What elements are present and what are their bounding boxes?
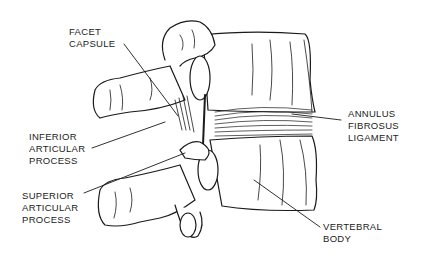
label-line: SUPERIOR xyxy=(22,190,78,202)
label-annulus-fibrosus-ligament: ANNULUS FIBROSUS LIGAMENT xyxy=(348,108,399,144)
label-line: FACET xyxy=(69,26,115,38)
vertebrae-diagram: FACET CAPSULE INFERIOR ARTICULAR PROCESS… xyxy=(0,0,423,266)
label-facet-capsule: FACET CAPSULE xyxy=(69,26,115,50)
label-line: PROCESS xyxy=(22,214,78,226)
label-superior-articular-process: SUPERIOR ARTICULAR PROCESS xyxy=(22,190,78,226)
label-inferior-articular-process: INFERIOR ARTICULAR PROCESS xyxy=(29,131,85,167)
label-line: CAPSULE xyxy=(69,38,115,50)
label-line: ARTICULAR xyxy=(29,143,85,155)
label-line: VERTEBRAL xyxy=(323,221,382,233)
label-line: BODY xyxy=(323,233,382,245)
label-line: ANNULUS xyxy=(348,108,399,120)
label-line: LIGAMENT xyxy=(348,132,399,144)
label-line: ARTICULAR xyxy=(22,202,78,214)
label-line: INFERIOR xyxy=(29,131,85,143)
label-line: FIBROSUS xyxy=(348,120,399,132)
label-line: PROCESS xyxy=(29,155,85,167)
label-vertebral-body: VERTEBRAL BODY xyxy=(323,221,382,245)
